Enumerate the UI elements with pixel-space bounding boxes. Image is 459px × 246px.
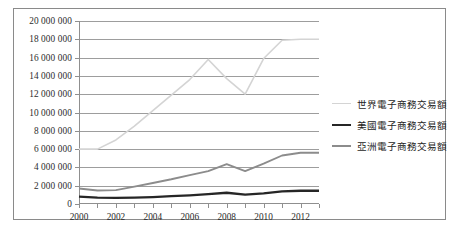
x-axis-tick-label: 2000 xyxy=(70,212,89,222)
legend-color-swatch xyxy=(332,124,351,126)
y-axis-tick-label: 12 000 000 xyxy=(29,89,72,99)
chart-legend: 世界電子商務交易額美國電子商務交易額亞洲電子商務交易額 xyxy=(332,93,444,156)
x-axis-tick-label: 2004 xyxy=(144,212,163,222)
series-layer xyxy=(79,21,319,204)
series-line xyxy=(79,153,319,191)
x-axis-tick-label: 2006 xyxy=(180,212,199,222)
x-axis-tick xyxy=(319,204,320,208)
legend-label: 世界電子商務交易額 xyxy=(357,97,447,111)
x-axis-labels: 2000200220042006200820102012 xyxy=(79,204,319,224)
series-line xyxy=(79,191,319,198)
y-axis-tick-label: 6 000 000 xyxy=(34,144,72,154)
y-axis-tick-label: 14 000 000 xyxy=(29,71,72,81)
legend-item[interactable]: 世界電子商務交易額 xyxy=(332,93,444,114)
x-axis-tick-label: 2012 xyxy=(291,212,310,222)
y-axis-tick-label: 20 000 000 xyxy=(29,16,72,26)
y-axis-tick-label: 10 000 000 xyxy=(29,108,72,118)
chart-figure: 20 000 00018 000 00016 000 00014 000 000… xyxy=(13,8,446,220)
legend-color-swatch xyxy=(332,145,351,147)
legend-label: 美國電子商務交易額 xyxy=(357,118,447,132)
plot-area: 20 000 00018 000 00016 000 00014 000 000… xyxy=(79,21,319,204)
legend-item[interactable]: 美國電子商務交易額 xyxy=(332,114,444,135)
y-axis-tick-label: 4 000 000 xyxy=(34,162,72,172)
x-axis-tick-label: 2002 xyxy=(107,212,126,222)
y-axis-tick-label: 18 000 000 xyxy=(29,34,72,44)
y-axis-tick-label: 0 xyxy=(67,199,72,209)
legend-item[interactable]: 亞洲電子商務交易額 xyxy=(332,135,444,156)
y-axis-tick-label: 8 000 000 xyxy=(34,126,72,136)
legend-color-swatch xyxy=(332,103,351,104)
y-axis-tick-label: 16 000 000 xyxy=(29,53,72,63)
legend-label: 亞洲電子商務交易額 xyxy=(357,139,447,153)
x-axis-tick-label: 2010 xyxy=(254,212,273,222)
x-axis-tick-label: 2008 xyxy=(217,212,236,222)
series-line xyxy=(79,39,319,149)
y-axis-tick-label: 2 000 000 xyxy=(34,181,72,191)
